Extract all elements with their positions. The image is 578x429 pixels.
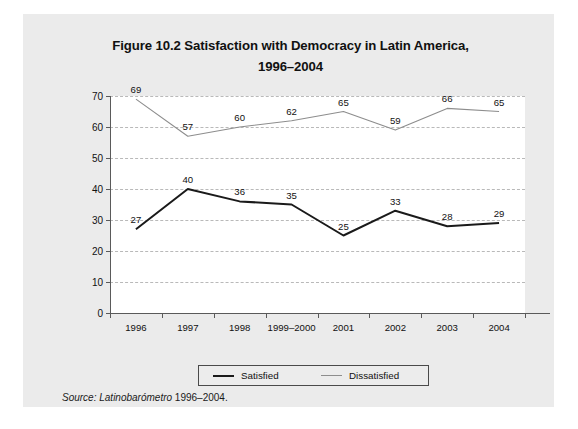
legend-item-satisfied[interactable]: Satisfied [213,366,279,385]
data-label: 60 [234,112,245,123]
data-label: 57 [182,121,193,132]
figure-panel: Figure 10.2 Satisfaction with Democracy … [23,14,554,407]
legend-label: Dissatisfied [349,370,399,381]
figure-title-line-1: Figure 10.2 Satisfaction with Democracy … [63,35,518,56]
data-label: 62 [286,106,297,117]
legend-swatch-icon [321,375,342,376]
x-tick-mark [525,313,526,318]
source-organization: Latinobarómetro [99,392,172,403]
legend-item-dissatisfied[interactable]: Dissatisfied [321,366,399,385]
figure-title: Figure 10.2 Satisfaction with Democracy … [63,35,518,77]
figure-title-line-2: 1996–2004 [63,56,518,77]
data-label: 65 [338,97,349,108]
chart-plot: 010203040506070 1996199719981999–2000200… [85,96,525,328]
data-label: 35 [286,190,297,201]
source-label: Source: [62,392,96,403]
source-note: Source: Latinobarómetro 1996–2004. [62,392,228,403]
data-label: 36 [234,186,245,197]
data-label: 25 [338,221,349,232]
data-label: 59 [390,115,401,126]
data-label: 69 [131,84,142,95]
data-label: 33 [390,196,401,207]
legend-swatch-icon [213,375,234,377]
data-label: 29 [494,208,505,219]
data-label: 28 [442,211,453,222]
data-label: 40 [182,174,193,185]
series-lines [85,96,525,328]
data-label: 66 [442,93,453,104]
data-label: 27 [131,214,142,225]
legend-label: Satisfied [241,370,279,381]
chart-legend: SatisfiedDissatisfied [198,365,429,386]
data-label: 65 [494,97,505,108]
source-years: 1996–2004. [175,392,228,403]
